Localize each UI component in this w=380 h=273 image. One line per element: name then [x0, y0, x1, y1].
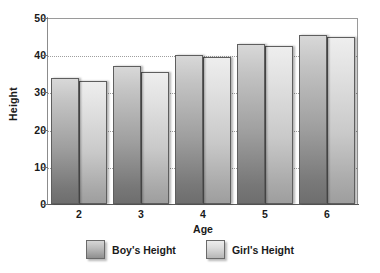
chart-legend: Boy's HeightGirl's Height [0, 240, 380, 259]
plot-area [48, 18, 358, 204]
bar-chart: Height 01020304050 23456 Age Boy's Heigh… [0, 0, 380, 273]
bar-group [237, 19, 293, 204]
legend-item[interactable]: Girl's Height [206, 240, 294, 259]
bar [299, 35, 327, 204]
bar [113, 66, 141, 204]
x-tick-label: 3 [138, 208, 144, 220]
x-tick-label: 5 [262, 208, 268, 220]
x-axis-title: Age [48, 223, 358, 235]
y-axis-title: Height [7, 69, 19, 139]
x-tick-label: 6 [324, 208, 330, 220]
legend-swatch-girl [206, 240, 225, 259]
x-tick-label: 4 [200, 208, 206, 220]
legend-swatch-boy [86, 240, 105, 259]
bar-group [299, 19, 355, 204]
bar [203, 57, 231, 204]
x-axis-tick-labels: 23456 [48, 208, 358, 224]
bar [79, 81, 107, 204]
y-tick-mark [42, 167, 48, 168]
y-axis-tick-labels: 01020304050 [22, 18, 46, 204]
y-tick-mark [42, 130, 48, 131]
bar-group [113, 19, 169, 204]
bar-group [51, 19, 107, 204]
bar [141, 72, 169, 204]
bar [327, 37, 355, 204]
y-tick-mark [42, 55, 48, 56]
bar-groups [48, 19, 357, 204]
bar-group [175, 19, 231, 204]
legend-label: Boy's Height [112, 244, 176, 256]
bar [265, 46, 293, 204]
y-tick-mark [42, 92, 48, 93]
y-tick-mark [42, 204, 48, 205]
x-tick-label: 2 [76, 208, 82, 220]
bar [237, 44, 265, 204]
x-axis-line [47, 204, 359, 205]
legend-item[interactable]: Boy's Height [86, 240, 176, 259]
legend-label: Girl's Height [232, 244, 294, 256]
y-tick-mark [42, 18, 48, 19]
bar [175, 55, 203, 204]
bar [51, 78, 79, 204]
